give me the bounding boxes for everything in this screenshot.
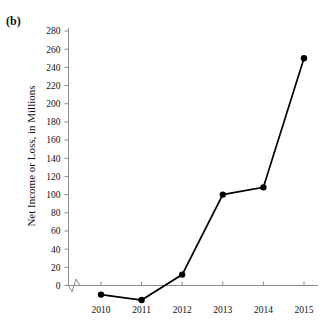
x-axis	[69, 279, 319, 292]
y-tick-label: 280	[46, 26, 61, 36]
data-point-marker	[138, 297, 144, 303]
data-point-marker	[260, 184, 266, 190]
y-tick-label: 200	[46, 99, 61, 109]
y-tick-label: 160	[46, 135, 61, 145]
y-tick-label: 120	[46, 172, 61, 182]
figure-panel: (b) Net Income or Loss, in Millions 0204…	[0, 0, 326, 336]
data-point-marker	[98, 291, 104, 297]
y-tick-group: 020406080100120140160180200220240260280	[46, 26, 68, 291]
line-chart: 020406080100120140160180200220240260280 …	[0, 0, 326, 336]
y-tick-label: 240	[46, 63, 61, 73]
y-tick-label: 0	[56, 281, 61, 291]
y-tick-label: 80	[51, 208, 61, 218]
series-line	[101, 58, 304, 300]
x-tick-label: 2015	[295, 305, 314, 315]
x-tick-label: 2012	[173, 305, 192, 315]
y-tick-label: 180	[46, 117, 61, 127]
data-point-marker	[179, 271, 185, 277]
y-tick-label: 60	[51, 226, 61, 236]
y-tick-label: 100	[46, 190, 61, 200]
data-point-marker	[220, 191, 226, 197]
data-series-group	[98, 55, 307, 303]
data-point-marker	[301, 55, 307, 61]
x-tick-label: 2014	[254, 305, 273, 315]
y-tick-label: 260	[46, 45, 61, 55]
y-tick-label: 20	[51, 263, 61, 273]
x-tick-label: 2010	[92, 305, 111, 315]
y-tick-label: 220	[46, 81, 61, 91]
y-tick-label: 40	[51, 245, 61, 255]
y-tick-label: 140	[46, 154, 61, 164]
x-tick-label: 2011	[132, 305, 151, 315]
x-tick-label: 2013	[213, 305, 232, 315]
